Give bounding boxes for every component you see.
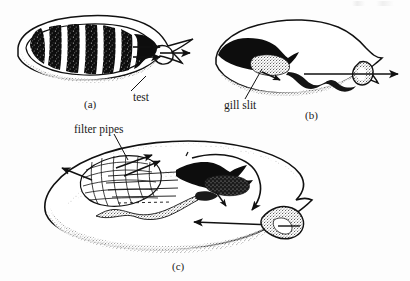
panel-a bbox=[18, 16, 193, 91]
scan-artifact bbox=[352, 1, 396, 6]
panel-letter-a: (a) bbox=[84, 99, 96, 110]
label-test: test bbox=[133, 92, 149, 104]
panel-c bbox=[45, 134, 312, 253]
panel-letter-c: (c) bbox=[172, 261, 184, 272]
panel-b bbox=[216, 20, 398, 99]
panel-letter-b: (b) bbox=[305, 110, 318, 121]
ascidian-diagram-svg bbox=[0, 0, 410, 281]
figure-container: test gill slit filter pipes (a) (b) (c) bbox=[0, 0, 410, 281]
label-gill-slit: gill slit bbox=[224, 100, 256, 112]
label-filter-pipes: filter pipes bbox=[74, 124, 124, 136]
panel-a-test-leader bbox=[131, 76, 146, 91]
